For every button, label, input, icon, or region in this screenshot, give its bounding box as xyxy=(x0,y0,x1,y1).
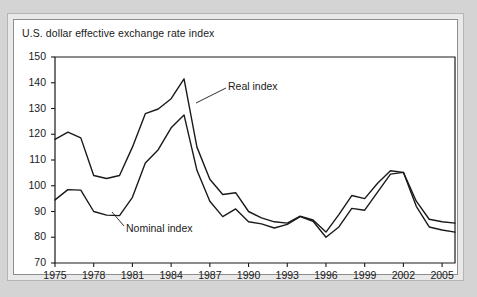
nominal-index-annotation: Nominal index xyxy=(126,222,193,234)
y-axis-tick-label: 110 xyxy=(22,153,46,165)
x-axis-tick-label: 1987 xyxy=(193,269,227,281)
x-axis-tick-label: 2005 xyxy=(425,269,459,281)
x-axis-tick-label: 1996 xyxy=(309,269,343,281)
real-index-annotation: Real index xyxy=(228,80,278,92)
x-axis-tick-label: 1978 xyxy=(77,269,111,281)
x-axis-tick-label: 1990 xyxy=(232,269,266,281)
y-axis-tick-label: 90 xyxy=(22,205,46,217)
x-axis-tick-label: 1975 xyxy=(38,269,72,281)
y-axis-tick-label: 150 xyxy=(22,50,46,62)
x-axis-tick-label: 1993 xyxy=(270,269,304,281)
x-axis-tick-label: 1981 xyxy=(115,269,149,281)
figure-inner-panel xyxy=(13,19,458,275)
y-axis-tick-label: 70 xyxy=(22,256,46,268)
y-axis-tick-label: 130 xyxy=(22,102,46,114)
y-axis-tick-label: 80 xyxy=(22,230,46,242)
x-axis-tick-label: 1984 xyxy=(154,269,188,281)
page-title: U.S. dollar effective exchange rate inde… xyxy=(22,27,214,39)
y-axis-tick-label: 100 xyxy=(22,179,46,191)
y-axis-tick-label: 120 xyxy=(22,127,46,139)
y-axis-tick-label: 140 xyxy=(22,76,46,88)
figure-root: U.S. dollar effective exchange rate inde… xyxy=(0,0,477,297)
x-axis-tick-label: 2002 xyxy=(386,269,420,281)
x-axis-tick-label: 1999 xyxy=(348,269,382,281)
